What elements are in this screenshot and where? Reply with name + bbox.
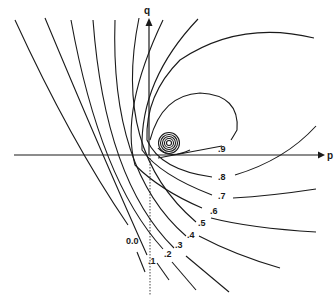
label-0.6: .6: [210, 206, 218, 216]
contour-diagram: q p 0.0 .1 .2 .3 .4 .5 .6 .7 .8 .9: [0, 0, 334, 300]
contour-0.3-lower: [172, 262, 196, 290]
label-0.9: .9: [218, 144, 226, 154]
singularity-circles: [158, 133, 190, 155]
label-0.3: .3: [175, 240, 183, 250]
contour-0.6: [131, 20, 202, 208]
contour-0.0-lower: [137, 252, 145, 272]
contour-0.9: [150, 93, 237, 140]
label-0.7: .7: [218, 191, 226, 201]
p-axis-label: p: [327, 150, 333, 161]
label-0.8: .8: [218, 172, 226, 182]
label-0.5: .5: [198, 218, 206, 228]
contour-0.8-lower: [235, 126, 316, 175]
label-0.0: 0.0: [126, 236, 139, 246]
contour-0.7-lower: [233, 189, 316, 198]
contour-0.2-lower: [157, 263, 169, 280]
contour-0.5: [132, 18, 196, 222]
contour-0.6-lower: [211, 218, 316, 232]
q-axis-arrow-icon: [146, 18, 153, 26]
contour-0.5-lower: [199, 236, 280, 268]
contour-0.0: [15, 20, 128, 225]
label-0.2: .2: [164, 249, 172, 259]
label-0.1: .1: [148, 256, 156, 266]
p-axis-arrow-icon: [318, 152, 325, 159]
label-0.4: .4: [187, 230, 195, 240]
q-axis-label: q: [144, 5, 150, 16]
